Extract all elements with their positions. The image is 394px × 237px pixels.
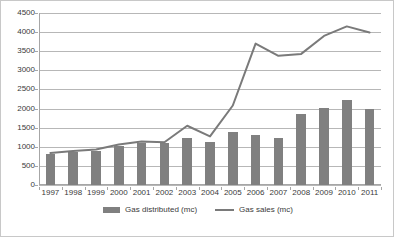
x-tick-mark	[221, 187, 222, 190]
y-tick-mark	[35, 70, 38, 71]
x-tick-label: 2004	[201, 189, 219, 197]
legend-item-gas-sales[interactable]: Gas sales (mc)	[215, 206, 293, 214]
line-swatch-icon	[215, 209, 234, 211]
x-tick-mark	[381, 187, 382, 190]
y-tick-label: 500	[22, 162, 35, 170]
x-tick-mark	[130, 187, 131, 190]
x-tick-label: 1997	[41, 189, 59, 197]
x-tick-label: 2010	[338, 189, 356, 197]
x-tick-mark	[85, 187, 86, 190]
y-tick-mark	[35, 89, 38, 90]
y-tick-mark	[35, 13, 38, 14]
line-series-gas-sales	[39, 13, 381, 185]
x-tick-mark	[107, 187, 108, 190]
y-tick-label: 3000	[17, 66, 35, 74]
legend-label-gas-sales: Gas sales (mc)	[239, 206, 293, 214]
y-tick-label: 4000	[17, 28, 35, 36]
x-tick-mark	[290, 187, 291, 190]
y-tick-label: 2000	[17, 105, 35, 113]
legend-item-gas-distributed[interactable]: Gas distributed (mc)	[103, 206, 197, 214]
x-tick-label: 2006	[247, 189, 265, 197]
y-tick-label: 1500	[17, 124, 35, 132]
x-tick-mark	[358, 187, 359, 190]
x-tick-mark	[176, 187, 177, 190]
x-tick-mark	[62, 187, 63, 190]
x-tick-mark	[267, 187, 268, 190]
y-tick-mark	[35, 32, 38, 33]
y-tick-mark	[35, 51, 38, 52]
x-tick-mark	[199, 187, 200, 190]
x-tick-label: 2009	[315, 189, 333, 197]
y-tick-mark	[35, 185, 38, 186]
x-tick-label: 2008	[292, 189, 310, 197]
x-tick-mark	[313, 187, 314, 190]
x-tick-label: 2000	[110, 189, 128, 197]
x-tick-label: 2002	[155, 189, 173, 197]
x-axis: 1997199819992000200120022003200420052006…	[39, 187, 381, 201]
x-tick-label: 1999	[87, 189, 105, 197]
gridline	[39, 185, 381, 186]
y-tick-mark	[35, 109, 38, 110]
bar-swatch-icon	[103, 207, 120, 213]
y-tick-label: 2500	[17, 85, 35, 93]
x-tick-mark	[153, 187, 154, 190]
chart-container: 050010001500200025003000350040004500 199…	[0, 0, 394, 237]
chart-legend: Gas distributed (mc) Gas sales (mc)	[1, 206, 394, 214]
y-tick-mark	[35, 147, 38, 148]
y-tick-mark	[35, 128, 38, 129]
x-tick-label: 1998	[64, 189, 82, 197]
y-tick-label: 4500	[17, 9, 35, 17]
x-tick-label: 2011	[361, 189, 378, 197]
y-tick-mark	[35, 166, 38, 167]
legend-label-gas-distributed: Gas distributed (mc)	[125, 206, 197, 214]
gas-sales-polyline	[50, 26, 369, 153]
y-axis: 050010001500200025003000350040004500	[1, 13, 35, 185]
x-tick-label: 2005	[224, 189, 242, 197]
x-tick-label: 2007	[269, 189, 287, 197]
x-tick-mark	[335, 187, 336, 190]
x-tick-label: 2001	[133, 189, 151, 197]
plot-area	[39, 13, 381, 185]
x-tick-label: 2003	[178, 189, 196, 197]
x-tick-mark	[39, 187, 40, 190]
y-tick-label: 1000	[17, 143, 35, 151]
x-tick-mark	[244, 187, 245, 190]
y-tick-label: 3500	[17, 47, 35, 55]
